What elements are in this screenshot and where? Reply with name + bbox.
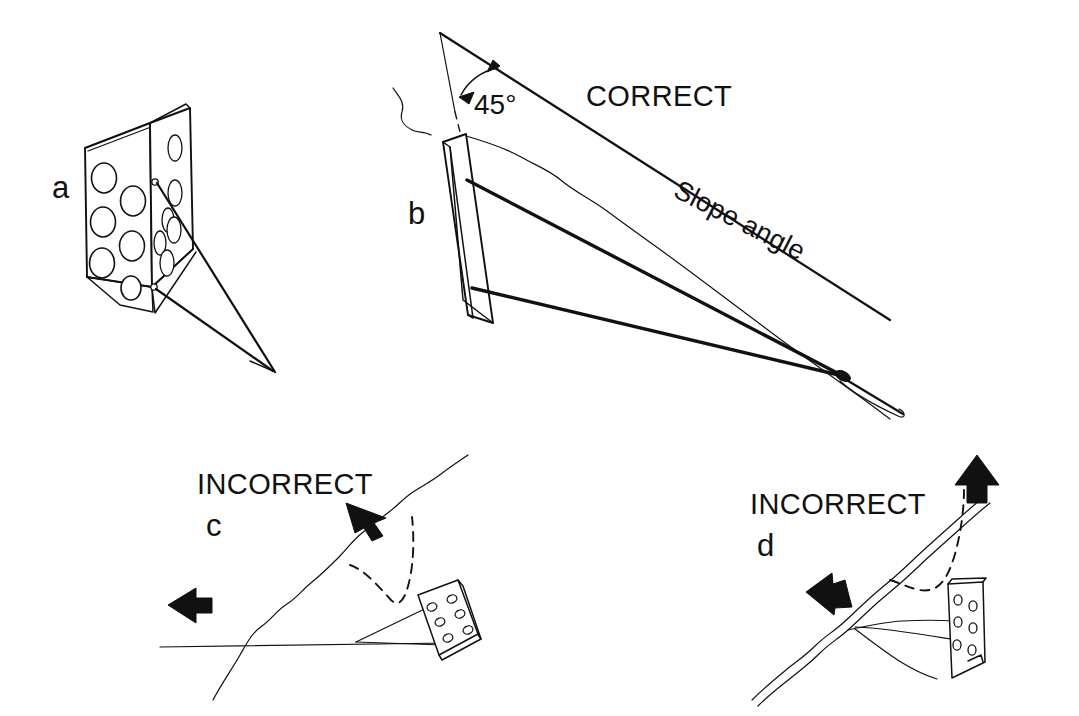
panel-b-anchor-plate [443, 134, 493, 323]
panel-b-correct-label: CORRECT [586, 80, 732, 112]
panel-d-group: INCORRECT d [750, 455, 999, 706]
panel-b-lower-cable [472, 288, 843, 376]
panel-d-incorrect-label: INCORRECT [750, 488, 926, 520]
panel-a-upper-cable [157, 183, 275, 372]
panel-b-upper-cable [467, 180, 843, 376]
panel-a-hole [121, 186, 146, 216]
panel-a-hole [120, 231, 145, 261]
panel-a-hole [167, 217, 181, 243]
panel-b-angle-label: 45° [474, 89, 516, 120]
panel-b-slope-angle-label: Slope angle [669, 175, 810, 266]
panel-c-arrow-upleft [346, 503, 386, 541]
panel-b-cable-loop-outer [845, 379, 903, 414]
panel-d-hole [968, 645, 976, 655]
panel-c-group: INCORRECT c [160, 455, 481, 700]
panel-d-label: d [757, 528, 774, 563]
panel-b-cable-loop-inner [840, 381, 904, 417]
panel-d-hole [969, 623, 977, 633]
panel-c-incorrect-label: INCORRECT [197, 468, 373, 500]
panel-b-slope-upper-line [440, 33, 890, 320]
panel-d-arrow-leftdown [806, 573, 852, 615]
panel-b-apex-vertical-extension [455, 112, 461, 136]
panel-b-ground-surface-slope [466, 136, 890, 419]
panel-d-arrow-up [955, 455, 999, 503]
panel-a-hole [121, 276, 141, 300]
panel-b-apex-vertical [440, 33, 455, 112]
panel-c-arrow-left [168, 588, 212, 623]
panel-a-hole [92, 163, 117, 193]
panel-c-label: c [206, 508, 222, 543]
panel-d-cable-lower [855, 629, 937, 679]
panel-d-anchor-plate [948, 582, 985, 678]
panel-d-hole [954, 595, 962, 605]
panel-a-hole [90, 248, 115, 278]
panel-a-hole [168, 135, 182, 161]
panel-a-hole [91, 207, 116, 237]
panel-d-cable-upper [855, 627, 950, 639]
panel-a-group: a [52, 104, 275, 372]
figure-canvas: a b [0, 0, 1079, 716]
panel-a-hole [160, 250, 174, 276]
panel-d-hole [954, 617, 962, 627]
technical-figure: a b [0, 0, 1079, 716]
panel-d-hole [953, 640, 961, 650]
panel-d-base-line [848, 620, 955, 630]
panel-b-group: b 45° CORRECT Slope angle [393, 33, 904, 419]
panel-b-label: b [408, 196, 425, 231]
panel-a-label: a [52, 170, 70, 205]
panel-b-ground-surface-left [393, 88, 431, 135]
panel-a-lower-cable [156, 289, 273, 371]
panel-d-hole [969, 601, 977, 611]
